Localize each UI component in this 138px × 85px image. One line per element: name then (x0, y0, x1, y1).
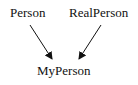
node-realperson: RealPerson (69, 6, 128, 20)
edge-person-to-myperson (30, 25, 52, 59)
node-person: Person (10, 6, 45, 20)
node-myperson: MyPerson (37, 64, 90, 78)
edge-realperson-to-myperson (79, 25, 101, 59)
